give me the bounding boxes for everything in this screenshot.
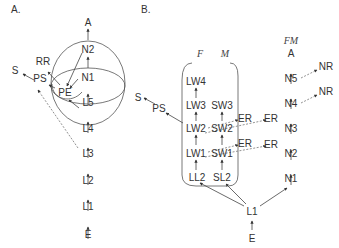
node-b-er-4: ER: [264, 139, 278, 150]
node-b-lw2: LW2: [186, 123, 206, 134]
node-a-ps: PS: [33, 73, 47, 84]
panel-b-label: B.: [141, 4, 150, 15]
node-a-l4: L4: [82, 123, 94, 134]
node-a-n2: N2: [82, 44, 95, 55]
node-b-lw3: LW3: [186, 100, 206, 111]
node-b-e: E: [249, 233, 256, 244]
node-b-nr-1: NR: [319, 61, 333, 72]
node-b-sl2: SL2: [213, 172, 231, 183]
panel-a-label: A.: [11, 4, 20, 15]
node-a-pe: PE: [58, 87, 72, 98]
panel-a: A. A N2 N1 PE L5 L4 L3 L2 L1 E RR: [11, 4, 125, 240]
group-label-f: F: [196, 48, 204, 59]
node-a-n1: N1: [82, 72, 95, 83]
group-label-m: M: [220, 48, 230, 59]
node-a-l2: L2: [82, 175, 94, 186]
node-b-er-1: ER: [238, 113, 252, 124]
node-b-sw3: SW3: [211, 100, 233, 111]
node-b-n4: N4: [285, 98, 298, 109]
node-a-l3: L3: [82, 148, 94, 159]
node-a-l5: L5: [82, 97, 94, 108]
neural-pathway-diagram: A. A N2 N1 PE L5 L4 L3 L2 L1 E RR: [0, 0, 339, 248]
node-a-a: A: [85, 17, 92, 28]
group-label-fm: FM: [283, 35, 299, 46]
node-a-l1: L1: [82, 201, 94, 212]
node-a-e: E: [85, 229, 92, 240]
node-b-l1: L1: [246, 206, 258, 217]
node-b-er-3: ER: [238, 138, 252, 149]
node-b-lw4: LW4: [186, 76, 206, 87]
node-b-ps: PS: [152, 103, 166, 114]
node-b-n5: N5: [285, 73, 298, 84]
node-b-n1: N1: [285, 173, 298, 184]
node-b-nr-2: NR: [319, 86, 333, 97]
node-b-s: S: [135, 92, 142, 103]
node-a-s: S: [12, 65, 19, 76]
node-b-a: A: [288, 48, 295, 59]
node-a-rr: RR: [36, 56, 50, 67]
node-b-n3: N3: [285, 123, 298, 134]
node-b-lw1: LW1: [186, 148, 206, 159]
panel-b: B. F M FM LW4: [135, 4, 334, 244]
node-b-er-2: ER: [264, 113, 278, 124]
node-b-ll2: LL2: [189, 172, 206, 183]
node-b-n2: N2: [285, 148, 298, 159]
node-b-sw2: SW2: [211, 123, 233, 134]
node-b-sw1: SW1: [211, 148, 233, 159]
